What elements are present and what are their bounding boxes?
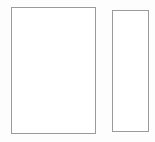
drawing-canvas (0, 0, 155, 142)
narrow-rectangle[interactable] (112, 10, 149, 132)
large-rectangle[interactable] (11, 7, 96, 134)
